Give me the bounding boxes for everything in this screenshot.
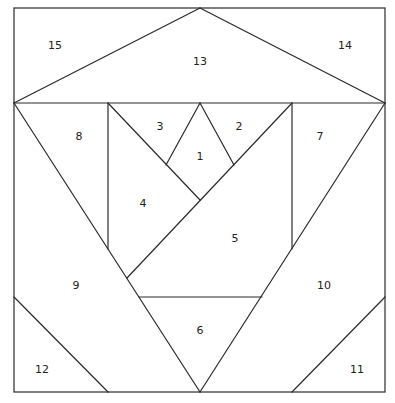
piece-labels: 1 2 3 4 5 6 7 8 9 10 11 12 13 14 15	[35, 39, 364, 376]
piece-label-12: 12	[35, 363, 49, 376]
piece-label-2: 2	[236, 120, 243, 133]
piece-label-3: 3	[157, 120, 164, 133]
piece-label-6: 6	[197, 324, 204, 337]
edge-bottom-left-corner	[14, 297, 108, 392]
edge-top-left-roof	[14, 8, 200, 103]
piece-label-10: 10	[317, 279, 331, 292]
piece-label-7: 7	[317, 130, 324, 143]
piece-label-11: 11	[350, 363, 364, 376]
edge-left-diagonal	[14, 103, 200, 392]
edge-bottom-right-corner	[292, 297, 385, 392]
piece-label-14: 14	[338, 39, 352, 52]
piece-label-4: 4	[140, 197, 147, 210]
piece-label-1: 1	[197, 150, 204, 163]
piecing-diagram: 1 2 3 4 5 6 7 8 9 10 11 12 13 14 15	[0, 0, 395, 403]
piece-label-13: 13	[193, 55, 207, 68]
edge-bud-left	[166, 103, 200, 165]
piece-label-5: 5	[232, 232, 239, 245]
piece-label-8: 8	[76, 130, 83, 143]
piece-label-9: 9	[73, 279, 80, 292]
edge-bud-right	[200, 103, 234, 165]
piece-label-15: 15	[48, 39, 62, 52]
edge-petal-left-diagonal	[108, 103, 200, 200]
edge-petal-long-diagonal	[127, 103, 292, 278]
edge-top-right-roof	[200, 8, 385, 103]
